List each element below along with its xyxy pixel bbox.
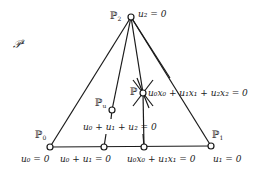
label-u0u1-zero: u₀ + u₁ = 0	[60, 154, 111, 164]
label-pu: ℙu	[95, 97, 106, 111]
label-p: ℙ	[130, 86, 138, 97]
label-p2: ℙ2	[110, 10, 121, 24]
label-sum-equation: u₀ + u₁ + u₂ = 0	[83, 122, 157, 132]
point-p2	[128, 14, 134, 20]
line-p2-p	[131, 17, 143, 93]
point-p0	[47, 144, 53, 150]
point-u0u1	[101, 144, 107, 150]
edge-p0-p1	[50, 146, 211, 147]
point-p	[140, 90, 146, 96]
label-p0: ℙ0	[35, 129, 46, 143]
point-p1	[208, 143, 214, 149]
label-u1-zero: u₁ = 0	[213, 154, 241, 164]
line-p2-label	[131, 17, 170, 78]
label-u0-zero: u₀ = 0	[21, 154, 49, 164]
label-u2-zero: u₂ = 0	[138, 9, 166, 19]
point-pu	[109, 107, 115, 113]
space-label: 𝒫2	[13, 38, 25, 51]
label-p1: ℙ1	[212, 129, 223, 143]
label-u0x0u1x1-zero: u₀x₀ + u₁x₁ = 0	[127, 154, 195, 164]
label-line-equation: u₀x₀ + u₁x₁ + u₂x₂ = 0	[148, 88, 248, 98]
point-u0x0u1x1	[141, 144, 147, 150]
line-p2-pu	[112, 17, 131, 110]
